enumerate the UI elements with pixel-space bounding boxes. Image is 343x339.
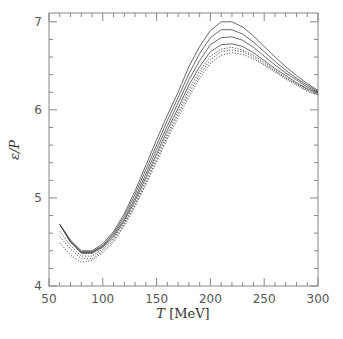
series-line bbox=[60, 22, 318, 251]
series-line bbox=[60, 53, 318, 263]
x-tick-label: 200 bbox=[199, 292, 222, 306]
y-tick-label: 5 bbox=[34, 191, 42, 205]
y-tick-label: 4 bbox=[34, 279, 42, 293]
y-tick-label: 6 bbox=[34, 103, 42, 117]
plot-frame bbox=[49, 13, 318, 286]
x-tick-label: 100 bbox=[91, 292, 114, 306]
y-axis-label: ε/P bbox=[7, 140, 22, 160]
series-line bbox=[60, 37, 318, 253]
series-line bbox=[60, 47, 318, 256]
series-line bbox=[60, 44, 318, 254]
chart: 501001502002503004567 T [MeV] ε/P bbox=[0, 0, 343, 339]
data-series bbox=[60, 22, 318, 262]
x-tick-label: 50 bbox=[41, 292, 56, 306]
x-tick-label: 250 bbox=[253, 292, 276, 306]
series-line bbox=[60, 30, 318, 252]
series-line bbox=[60, 50, 318, 259]
tick-labels: 501001502002503004567 bbox=[34, 15, 329, 306]
axis-ticks bbox=[49, 13, 318, 286]
y-tick-label: 7 bbox=[34, 15, 42, 29]
x-tick-label: 150 bbox=[145, 292, 168, 306]
x-axis-label: T [MeV] bbox=[156, 306, 209, 321]
x-tick-label: 300 bbox=[307, 292, 330, 306]
